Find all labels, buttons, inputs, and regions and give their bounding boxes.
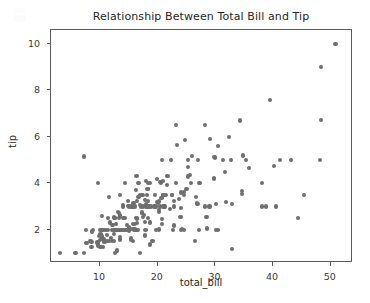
data-point: [165, 174, 169, 178]
data-point: [90, 229, 94, 233]
data-point: [113, 251, 117, 255]
data-point: [117, 216, 121, 220]
data-point: [205, 226, 209, 230]
data-point: [224, 200, 228, 204]
data-point: [131, 239, 135, 243]
data-point: [214, 202, 218, 206]
data-point: [171, 228, 175, 232]
data-point: [186, 165, 190, 169]
data-point: [126, 199, 130, 203]
data-point: [135, 221, 139, 225]
data-point: [146, 199, 150, 203]
data-point: [221, 158, 225, 162]
data-point: [289, 158, 293, 162]
data-point: [112, 232, 116, 236]
data-point: [186, 158, 190, 162]
y-axis-label: tip: [7, 122, 18, 162]
data-point: [165, 183, 169, 187]
data-point: [333, 42, 337, 46]
data-point: [112, 239, 116, 243]
data-point: [160, 158, 164, 162]
data-point: [194, 195, 198, 199]
data-point: [82, 251, 86, 255]
data-point: [203, 204, 207, 208]
data-point: [152, 204, 156, 208]
data-point: [98, 245, 102, 249]
data-point: [96, 181, 100, 185]
y-tick-mark: [47, 182, 51, 183]
data-point: [179, 206, 183, 210]
data-point: [170, 193, 174, 197]
data-point: [207, 204, 211, 208]
data-point: [296, 216, 300, 220]
data-point: [123, 181, 127, 185]
chart-title: Relationship Between Total Bill and Tip: [50, 10, 352, 23]
data-point: [118, 237, 122, 241]
data-point: [184, 187, 188, 191]
data-point: [158, 204, 162, 208]
data-point: [118, 193, 122, 197]
data-point: [177, 197, 181, 201]
data-point: [203, 123, 207, 127]
y-tick-mark: [47, 229, 51, 230]
data-point: [153, 193, 157, 197]
data-point: [230, 202, 234, 206]
y-tick-mark: [47, 89, 51, 90]
data-point: [183, 138, 187, 142]
data-point: [161, 193, 165, 197]
data-point: [319, 118, 323, 122]
data-point: [247, 166, 251, 170]
data-point: [169, 158, 173, 162]
data-point: [175, 143, 179, 147]
y-tick-mark: [47, 43, 51, 44]
data-point: [148, 220, 152, 224]
data-point: [260, 181, 264, 185]
data-point: [174, 181, 178, 185]
data-point: [319, 65, 323, 69]
data-point: [97, 234, 101, 238]
x-tick-mark: [99, 262, 100, 266]
data-point: [229, 158, 233, 162]
data-point: [106, 228, 110, 232]
data-point: [134, 188, 138, 192]
data-point: [73, 251, 77, 255]
data-point: [160, 222, 164, 226]
data-point: [190, 154, 194, 158]
data-point: [197, 228, 201, 232]
data-point: [85, 241, 89, 245]
data-point: [216, 144, 220, 148]
data-point: [82, 154, 86, 158]
data-point: [143, 220, 147, 224]
data-point: [172, 223, 176, 227]
data-point: [204, 215, 208, 219]
x-tick-mark: [330, 262, 331, 266]
data-point: [172, 199, 176, 203]
data-point: [100, 214, 104, 218]
data-point: [143, 233, 147, 237]
data-point: [102, 240, 106, 244]
data-point: [186, 174, 190, 178]
data-point: [178, 215, 182, 219]
y-tick-label: 4: [18, 177, 40, 188]
y-tick-label: 8: [18, 84, 40, 95]
y-tick-label: 2: [18, 223, 40, 234]
data-point: [174, 123, 178, 127]
data-point: [98, 228, 102, 232]
data-point: [318, 158, 322, 162]
data-point: [134, 228, 138, 232]
data-point: [278, 158, 282, 162]
data-point: [88, 239, 92, 243]
data-point: [161, 204, 165, 208]
plot-area: [50, 29, 352, 262]
data-point: [238, 118, 242, 122]
figure-canvas: Relationship Between Total Bill and Tip …: [0, 0, 370, 303]
data-point: [189, 181, 193, 185]
data-point: [302, 193, 306, 197]
data-point: [148, 181, 152, 185]
data-point: [117, 211, 121, 215]
data-point: [168, 207, 172, 211]
data-point: [89, 245, 93, 249]
x-tick-mark: [214, 262, 215, 266]
data-point: [268, 98, 272, 102]
data-point: [172, 204, 176, 208]
